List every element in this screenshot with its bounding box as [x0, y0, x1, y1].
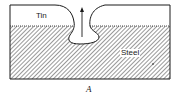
speck [152, 63, 154, 65]
figure-caption: A [86, 85, 92, 94]
tin-steel-cross-section-diagram [0, 0, 184, 97]
steel-label: Steel [120, 49, 140, 57]
tin-label: Tin [36, 12, 47, 20]
up-arrow-icon [80, 7, 84, 12]
steel-region [10, 26, 170, 79]
